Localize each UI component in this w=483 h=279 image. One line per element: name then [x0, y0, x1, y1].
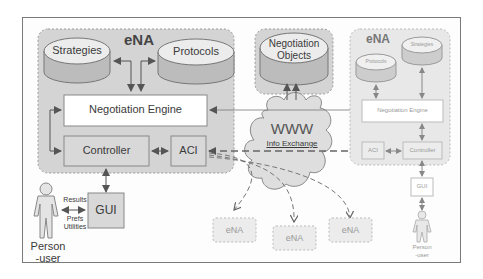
negotiation-objects-label-line1: Negotiation	[260, 38, 328, 49]
prefs-label: Prefs	[60, 215, 90, 222]
person-label-line1: Person	[28, 240, 68, 252]
person-user-icon	[34, 183, 58, 238]
gui-label: GUI	[88, 203, 124, 217]
remote-person-user-icon	[413, 211, 431, 242]
protocols-label: Protocols	[158, 45, 234, 57]
utilities-label: Utilities	[60, 223, 90, 230]
www-label: WWW	[260, 120, 324, 137]
strategies-label: Strategies	[44, 44, 110, 56]
remote-strategies-label: Strategies	[402, 41, 442, 47]
remote-person-label-line1: Person	[407, 244, 437, 250]
other-ena-label-2: eNA	[273, 233, 316, 243]
remote-protocols-label: Protocols	[356, 58, 396, 64]
negotiation-objects-label-line2: Objects	[260, 50, 328, 61]
results-label: Results	[60, 196, 90, 203]
remote-controller-label: Controller	[403, 147, 442, 153]
remote-ena-title: eNA	[366, 32, 390, 46]
negotiation-engine-label: Negotiation Engine	[64, 103, 207, 115]
aci-label: ACI	[171, 144, 206, 156]
local-ena-title: eNA	[124, 31, 154, 48]
info-exchange-label: Info Exchange	[256, 139, 328, 148]
controller-label: Controller	[64, 144, 149, 156]
remote-person-label-line2: -user	[407, 252, 437, 258]
remote-aci-label: ACI	[362, 147, 384, 153]
remote-negotiation-engine-label: Negotiation Engine	[362, 107, 443, 113]
person-label-line2: -user	[28, 252, 68, 264]
other-ena-label-1: eNA	[213, 225, 256, 235]
other-ena-label-3: eNA	[329, 225, 372, 235]
remote-gui-label: GUI	[411, 183, 433, 189]
